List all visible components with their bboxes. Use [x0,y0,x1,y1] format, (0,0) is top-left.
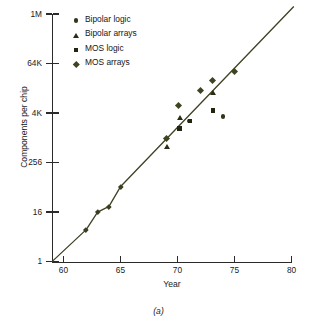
y-tick-mark [46,13,52,14]
legend-item: MOS logic [72,42,182,57]
data-point-diamond [175,102,182,109]
data-point-diamond [95,210,100,215]
figure-caption: (a) [0,306,317,316]
y-tick-label: 1 [0,257,42,265]
y-tick-mark [46,112,52,113]
x-tick-label: 70 [162,266,192,274]
data-point-diamond [231,68,238,75]
y-axis-line [52,14,53,263]
diamond-glyph [73,61,79,67]
x-tick-mark [63,256,64,262]
square-marker-icon [72,46,81,55]
legend-item: MOS arrays [72,57,182,72]
data-point-square [177,126,182,131]
diamond-marker-icon [72,60,81,69]
y-tick-mark-inner [53,63,59,64]
y-axis-title: Components per chip [19,47,29,207]
y-tick-mark-inner [53,211,59,212]
data-point-diamond [106,204,111,209]
data-point-diamond [163,135,170,142]
legend-label: Bipolar arrays [85,29,137,38]
x-tick-mark [177,256,178,262]
y-tick-label: 1M [0,10,42,18]
x-axis-line [52,262,292,263]
x-tick-label: 80 [277,266,307,274]
y-tick-mark-inner [53,261,59,262]
data-point-diamond [84,227,89,232]
data-point-diamond [197,87,204,94]
chart-legend: Bipolar logicBipolar arraysMOS logicMOS … [72,13,182,71]
square-glyph [74,48,79,53]
y-tick-mark-inner [53,112,59,113]
y-tick-mark-inner [53,13,59,14]
y-tick-mark [46,261,52,262]
y-tick-mark-inner [53,162,59,163]
data-point-diamond [118,184,123,189]
data-point-triangle [177,115,183,120]
x-tick-mark [234,256,235,262]
y-tick-mark [46,63,52,64]
x-tick-mark [120,256,121,262]
legend-label: MOS arrays [85,58,130,67]
data-point-triangle [210,90,216,95]
circle-glyph [74,18,79,23]
x-tick-label: 75 [219,266,249,274]
legend-label: Bipolar logic [85,15,131,24]
triangle-marker-icon [72,31,81,40]
x-axis-title: Year [52,279,292,289]
x-tick-mark [291,256,292,262]
y-tick-label: 16 [0,208,42,216]
figure-container: 1162564K64K1M6065707580 Components per c… [0,0,317,331]
y-tick-mark [46,162,52,163]
data-point-circle [221,114,226,119]
triangle-glyph [73,33,79,38]
data-point-square [188,119,193,124]
data-point-diamond [209,77,216,84]
data-point-triangle [164,144,170,149]
legend-label: MOS logic [85,44,124,53]
x-tick-label: 65 [105,266,135,274]
y-tick-mark [46,211,52,212]
legend-item: Bipolar logic [72,13,182,28]
circle-marker-icon [72,16,81,25]
data-point-square [211,108,216,113]
x-tick-label: 60 [48,266,78,274]
legend-item: Bipolar arrays [72,28,182,43]
